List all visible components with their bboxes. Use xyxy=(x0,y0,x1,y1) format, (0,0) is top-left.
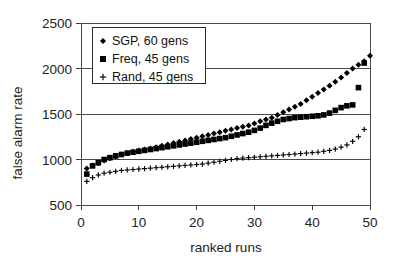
y-tick-label: 2500 xyxy=(42,16,72,31)
data-point-diamond xyxy=(327,83,333,89)
data-point-diamond xyxy=(275,112,281,118)
legend-label-freq: Freq, 45 gens xyxy=(112,52,189,66)
data-point-plus xyxy=(310,150,315,155)
data-point-plus xyxy=(119,168,124,173)
data-point-plus xyxy=(258,154,263,159)
data-point-plus xyxy=(275,153,280,158)
data-point-diamond xyxy=(234,125,240,131)
chart-legend: SGP, 60 gens Freq, 45 gens Rand, 45 gens xyxy=(92,27,205,84)
chart-container: 5001000150020002500 01020304050 false al… xyxy=(0,0,398,267)
data-point-plus xyxy=(188,162,193,167)
data-point-plus xyxy=(286,152,291,157)
data-point-plus xyxy=(223,158,228,163)
data-point-plus xyxy=(350,139,355,144)
data-point-square xyxy=(327,110,333,116)
data-point-plus xyxy=(339,145,344,150)
data-point-plus xyxy=(125,167,130,172)
data-point-diamond xyxy=(240,124,246,130)
data-point-plus xyxy=(84,179,89,184)
data-point-square xyxy=(304,114,310,120)
data-point-plus xyxy=(177,163,182,168)
data-point-diamond xyxy=(303,97,309,103)
data-point-diamond xyxy=(223,128,229,134)
data-point-plus xyxy=(142,166,147,171)
data-point-square xyxy=(281,117,287,123)
data-point-plus xyxy=(206,161,211,166)
data-point-plus xyxy=(234,156,239,161)
data-point-plus xyxy=(362,127,367,132)
data-point-plus xyxy=(136,166,141,171)
data-point-square xyxy=(223,135,229,141)
data-point-square xyxy=(269,120,275,126)
data-point-plus xyxy=(327,148,332,153)
data-point-square xyxy=(298,114,304,120)
x-tick-label: 10 xyxy=(131,215,146,230)
data-point-plus xyxy=(229,157,234,162)
data-point-square xyxy=(148,147,154,153)
data-point-square xyxy=(142,148,148,154)
data-point-square xyxy=(350,102,356,108)
data-point-diamond xyxy=(344,70,350,76)
y-axis-tick-labels: 5001000150020002500 xyxy=(42,16,72,213)
data-point-plus xyxy=(292,151,297,156)
data-point-diamond xyxy=(338,75,344,81)
data-point-square xyxy=(176,142,182,148)
data-point-plus xyxy=(200,161,205,166)
data-point-diamond xyxy=(321,86,327,92)
y-tick-label: 1000 xyxy=(42,153,72,168)
data-point-diamond xyxy=(367,53,373,59)
data-point-diamond xyxy=(263,116,269,122)
x-axis-title: ranked runs xyxy=(190,240,262,255)
data-point-square xyxy=(124,150,130,156)
data-point-plus xyxy=(298,151,303,156)
data-point-square xyxy=(119,152,125,158)
y-axis-title: false alarm rate xyxy=(10,86,25,179)
legend-label-sgp: SGP, 60 gens xyxy=(112,34,188,48)
x-axis-tick-labels: 01020304050 xyxy=(77,215,377,230)
data-point-square xyxy=(344,103,350,109)
data-point-diamond xyxy=(292,104,298,110)
data-point-square xyxy=(240,131,246,137)
data-point-square xyxy=(263,123,269,129)
x-tick-label: 50 xyxy=(362,215,377,230)
data-point-diamond xyxy=(251,121,257,127)
data-point-square xyxy=(194,139,200,145)
data-point-plus xyxy=(90,175,95,180)
data-point-square xyxy=(309,113,315,119)
data-point-plus xyxy=(344,142,349,147)
data-point-plus xyxy=(194,162,199,167)
false-alarm-rate-scatter-chart: 5001000150020002500 01020304050 false al… xyxy=(0,0,398,267)
data-point-plus xyxy=(113,169,118,174)
data-point-square xyxy=(101,157,107,163)
data-point-plus xyxy=(154,165,159,170)
data-point-square xyxy=(321,112,327,118)
data-point-diamond xyxy=(332,79,338,85)
data-point-plus xyxy=(315,150,320,155)
data-point-diamond xyxy=(84,166,90,172)
data-point-square xyxy=(96,160,102,166)
data-point-plus xyxy=(263,154,268,159)
legend-label-rand: Rand, 45 gens xyxy=(112,70,193,84)
data-point-plus xyxy=(107,170,112,175)
y-tick-label: 2000 xyxy=(42,62,72,77)
data-point-square xyxy=(292,115,298,121)
data-point-square xyxy=(200,139,206,145)
y-tick-label: 500 xyxy=(49,198,72,213)
data-point-plus xyxy=(182,163,187,168)
x-tick-label: 40 xyxy=(305,215,320,230)
data-point-square xyxy=(315,113,321,119)
data-point-diamond xyxy=(205,132,211,138)
data-point-diamond xyxy=(309,94,315,100)
x-tick-label: 30 xyxy=(247,215,262,230)
data-point-diamond xyxy=(246,122,252,128)
data-point-square xyxy=(171,143,177,149)
data-point-plus xyxy=(321,149,326,154)
data-point-plus xyxy=(130,167,135,172)
data-point-square xyxy=(338,105,344,111)
data-point-plus xyxy=(159,165,164,170)
data-point-diamond xyxy=(298,101,304,107)
data-point-square xyxy=(361,60,367,66)
data-point-square xyxy=(107,155,113,161)
data-point-square xyxy=(84,171,90,177)
data-point-plus xyxy=(304,151,309,156)
